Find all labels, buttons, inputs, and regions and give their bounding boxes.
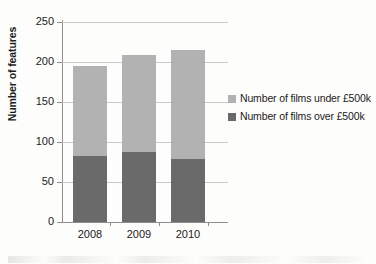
legend-label-under-500k: Number of films under £500k — [240, 92, 371, 105]
y-tick-label: 50 — [8, 175, 54, 187]
y-axis-tick-labels: 250 200 150 100 50 0 — [0, 22, 54, 222]
bar-segment-over-500k-2009 — [122, 152, 156, 222]
legend-swatch-icon — [228, 113, 236, 121]
x-tick-mark — [110, 222, 111, 226]
x-axis-tick-labels: 2008 2009 2010 — [62, 228, 208, 246]
gridline — [62, 22, 228, 23]
y-tick-label: 150 — [8, 95, 54, 107]
x-axis-line — [62, 222, 228, 223]
legend-swatch-icon — [228, 95, 236, 103]
y-tick-label: 200 — [8, 55, 54, 67]
plot-area — [62, 22, 208, 222]
bar-segment-under-500k-2008 — [73, 66, 107, 156]
chart-legend: Number of films under £500k Number of fi… — [228, 92, 374, 128]
legend-label-over-500k: Number of films over £500k — [240, 110, 364, 123]
y-tick-label: 250 — [8, 15, 54, 27]
bar-segment-under-500k-2010 — [171, 50, 205, 159]
x-tick-label-2009: 2009 — [112, 228, 166, 240]
x-tick-label-2010: 2010 — [161, 228, 215, 240]
y-tick-label: 0 — [8, 215, 54, 227]
legend-entry-under-500k: Number of films under £500k — [228, 92, 374, 105]
bar-segment-over-500k-2008 — [73, 156, 107, 222]
legend-entry-over-500k: Number of films over £500k — [228, 110, 374, 123]
x-tick-mark — [208, 222, 209, 226]
bar-segment-under-500k-2009 — [122, 55, 156, 153]
stacked-bar-chart: Number of features 250 200 150 100 50 0 — [0, 0, 376, 264]
scan-artifact — [8, 256, 368, 263]
y-tick-label: 100 — [8, 135, 54, 147]
x-tick-label-2008: 2008 — [63, 228, 117, 240]
bar-segment-over-500k-2010 — [171, 159, 205, 222]
x-tick-mark — [159, 222, 160, 226]
